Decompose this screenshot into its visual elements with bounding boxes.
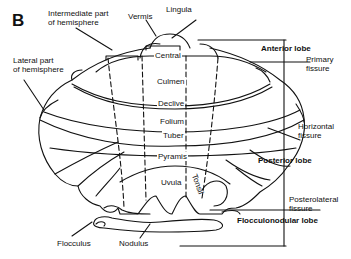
flocculus-label: Flocculus (57, 239, 91, 248)
panel-label: B (12, 12, 24, 30)
flocculonodular-outline (94, 217, 223, 232)
anterior-lobe-label: Anterior lobe (261, 44, 311, 53)
posterior-lobe-label: Posterior lobe (258, 156, 312, 165)
posterolateral-fissure-label: Posterolateral fissure (289, 195, 338, 213)
primary-fissure-label: Primary fissure (306, 55, 334, 73)
vermis-lobule-uvula: Uvula (160, 178, 182, 187)
flocculonodular-lobe-label: Flocculonodular lobe (237, 216, 318, 225)
lingula-label: Lingula (166, 5, 192, 14)
vermis-lobule-central: Central (154, 51, 182, 60)
intermediate-part-label: Intermediate part of hemisphere (48, 9, 108, 27)
nodulus-label: Nodulus (119, 239, 148, 248)
lateral-part-label: Lateral part of hemisphere (13, 56, 64, 74)
vermis-lobule-declive: Declive (157, 99, 185, 108)
vermis-lobule-tuber: Tuber (162, 131, 185, 140)
vermis-lobule-culmen: Culmen (156, 77, 186, 86)
horizontal-fissure-label: Horizontal fissure (298, 122, 334, 140)
vermis-lobule-pyramis: Pyramis (157, 152, 188, 161)
vermis-lobule-folium: Folium (159, 117, 185, 126)
vermis-label: Vermis (128, 12, 152, 21)
